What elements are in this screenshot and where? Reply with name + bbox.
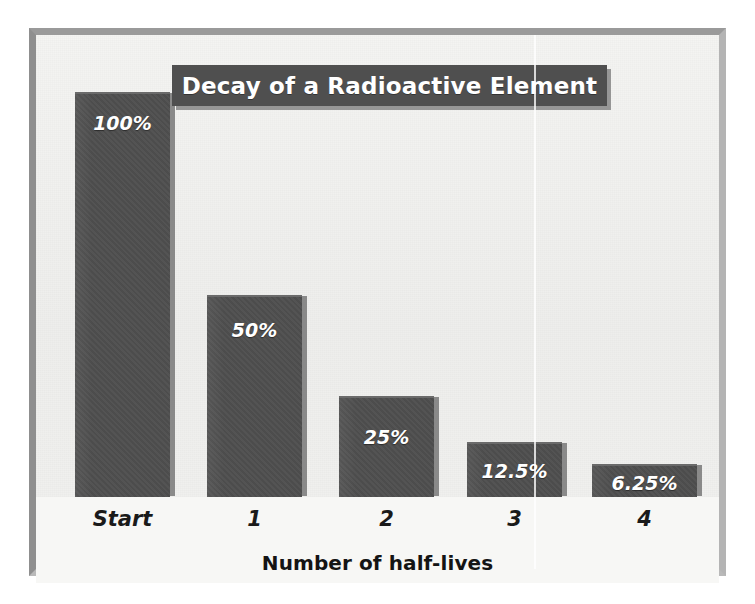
x-axis-title: Number of half-lives <box>262 551 493 575</box>
x-tick-label: 1 <box>207 497 302 542</box>
bar-3: 12.5% <box>467 442 562 497</box>
x-tick-label: 4 <box>592 497 697 542</box>
bar-value-label: 50% <box>207 319 302 341</box>
bar-value-label: 12.5% <box>467 460 562 482</box>
bar-slot: 50% <box>207 295 302 497</box>
figure-page: 100%50%25%12.5%6.25% Decay of a Radioact… <box>0 0 755 604</box>
bar-slot: 25% <box>339 396 434 497</box>
chart-title-banner: Decay of a Radioactive Element <box>172 65 607 106</box>
bar-value-label: 6.25% <box>592 472 697 494</box>
bar-2: 25% <box>339 396 434 497</box>
bar-1: 50% <box>207 295 302 497</box>
bar-value-label: 25% <box>339 426 434 448</box>
chart-title: Decay of a Radioactive Element <box>182 73 598 99</box>
bar-value-label: 100% <box>75 112 170 134</box>
x-axis-title-row: Number of half-lives <box>36 542 719 583</box>
bar-slot: 6.25% <box>592 464 697 497</box>
x-tick-label: 3 <box>467 497 562 542</box>
x-axis-tick-row: Start1234 <box>36 497 719 544</box>
bar-start: 100% <box>75 92 170 497</box>
bar-4: 6.25% <box>592 464 697 497</box>
x-tick-label: Start <box>75 497 170 542</box>
bar-slot: 12.5% <box>467 442 562 497</box>
chart-frame: 100%50%25%12.5%6.25% Decay of a Radioact… <box>29 28 726 576</box>
x-tick-label: 2 <box>339 497 434 542</box>
bar-slot: 100% <box>75 92 170 497</box>
